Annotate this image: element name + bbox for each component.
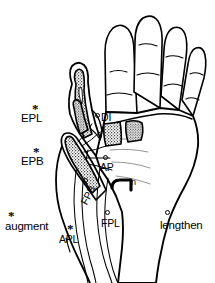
label-fpl: FPL [101,218,120,229]
label-apl: APL [59,234,78,245]
label-di: DI [101,112,111,123]
circle-marker-ap [103,155,108,160]
muscle-belly-di-second [126,121,143,142]
finger-middle-outline [134,16,162,108]
circle-marker-di [95,113,100,118]
legend-label-augment: augment [5,221,48,233]
finger-index-outline [105,25,137,113]
legend-label-lengthen: lengthen [160,220,203,232]
hand-drawing [0,0,215,283]
circle-marker-fpb [83,178,88,183]
hand-anatomy-figure: * EPL * EPB DI AP FPB n * augment * APL … [0,0,215,283]
hand-outline-group [56,16,206,283]
label-n: n [131,178,136,187]
circle-marker-legend [165,210,170,215]
label-ap: AP [100,162,114,173]
label-epb: EPB [21,156,43,168]
circle-marker-fpl [105,210,110,215]
label-epl: EPL [21,113,42,125]
muscle-belly-di-first [104,122,122,146]
